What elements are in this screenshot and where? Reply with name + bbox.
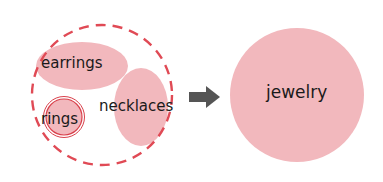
rings-label: rings: [41, 112, 78, 127]
jewelry-label: jewelry: [266, 84, 327, 101]
necklaces-label: necklaces: [99, 99, 173, 114]
diagram-canvas: earrings rings necklaces jewelry: [0, 0, 383, 182]
earrings-label: earrings: [41, 56, 103, 71]
arrow-right-icon: [189, 86, 220, 108]
